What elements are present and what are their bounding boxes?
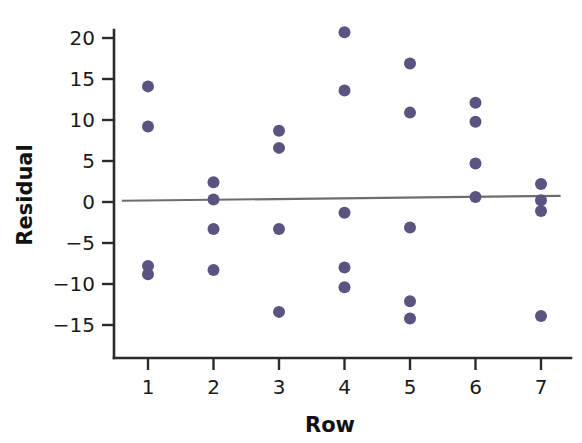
data-point [339,262,351,274]
data-point [470,191,482,203]
residual-scatter-figure: 20151050−5−10−15 1234567 RowResidual [0,0,582,443]
y-tick-label: 20 [70,26,95,50]
data-point [339,281,351,293]
data-point [404,107,416,119]
data-point [470,97,482,109]
x-tick-label: 1 [142,375,155,399]
data-points-layer [142,26,547,324]
data-point [208,264,220,276]
y-tick-label: −5 [66,231,95,255]
x-tick-label: 6 [469,375,482,399]
x-axis: 1234567 [114,358,571,399]
data-point [142,121,154,133]
x-axis-title: Row [305,413,355,437]
y-tick-label: 10 [70,108,95,132]
plot-canvas: 20151050−5−10−15 1234567 RowResidual [0,0,582,443]
y-tick-label: 0 [82,190,95,214]
data-point [208,176,220,188]
data-point [404,295,416,307]
data-point [208,194,220,206]
x-tick-label: 7 [535,375,548,399]
data-point [273,142,285,154]
data-point [404,312,416,324]
data-point [273,125,285,137]
data-point [535,310,547,322]
data-point [470,157,482,169]
data-point [404,221,416,233]
x-tick-label: 4 [338,375,351,399]
y-tick-label: 15 [70,67,95,91]
data-point [273,223,285,235]
fit-line-segment [122,196,561,201]
data-point [404,57,416,69]
data-point [339,26,351,38]
x-tick-label: 3 [273,375,286,399]
y-tick-label: −15 [53,313,95,337]
data-point [273,306,285,318]
regression-fit-line [122,196,561,201]
data-point [142,268,154,280]
y-axis-title: Residual [13,144,37,245]
y-axis: 20151050−5−10−15 [53,26,114,358]
data-point [142,80,154,92]
data-point [535,205,547,217]
data-point [208,223,220,235]
data-point [339,84,351,96]
data-point [470,116,482,128]
y-tick-label: 5 [82,149,95,173]
x-tick-label: 2 [207,375,220,399]
data-point [535,178,547,190]
data-point [339,207,351,219]
y-tick-label: −10 [53,272,95,296]
x-tick-label: 5 [404,375,417,399]
data-point [535,194,547,206]
